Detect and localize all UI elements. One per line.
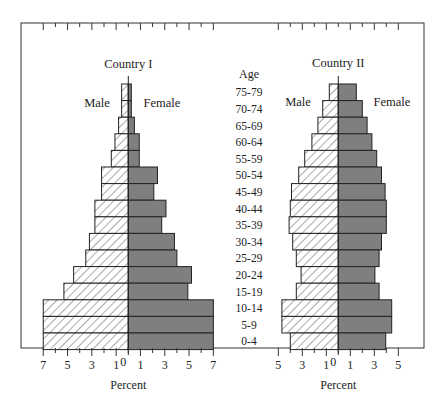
female-bar	[338, 84, 356, 101]
female-bar	[128, 217, 161, 234]
x-tick-label: 3	[89, 358, 95, 372]
female-bar	[338, 300, 391, 317]
male-bar	[305, 150, 339, 167]
male-bar	[318, 117, 338, 134]
age-axis-labels: Age 75-7970-7465-6960-6455-5950-5445-494…	[236, 67, 263, 347]
male-bar	[290, 333, 338, 350]
male-bar	[95, 217, 128, 234]
male-bar	[122, 84, 129, 101]
male-bar	[312, 134, 338, 151]
female-bar	[338, 200, 386, 217]
female-bar	[338, 217, 386, 234]
x-tick-label: 1	[137, 358, 143, 372]
age-group-label: 25-29	[236, 252, 263, 264]
female-bar	[338, 267, 375, 284]
age-group-label: 5-9	[241, 319, 257, 331]
age-group-label: 20-24	[236, 269, 263, 281]
x-tick-label: 1	[347, 358, 353, 372]
female-bar	[128, 300, 213, 317]
female-bar	[338, 150, 376, 167]
x-tick-label: 5	[65, 358, 71, 372]
male-bar	[296, 250, 338, 267]
age-group-label: 65-69	[236, 120, 263, 132]
male-bar	[89, 233, 128, 250]
male-bar	[43, 300, 128, 317]
x-tick-label: 5	[186, 358, 192, 372]
female-bar	[338, 250, 379, 267]
male-bar	[282, 300, 338, 317]
age-group-label: 40-44	[236, 203, 263, 215]
male-bar	[102, 167, 129, 184]
female-bar	[338, 316, 391, 333]
x-tick-label: 7	[40, 358, 46, 372]
female-bar	[338, 134, 372, 151]
male-bar	[292, 184, 339, 201]
female-bar	[128, 283, 188, 300]
female-bar	[338, 333, 385, 350]
male-bar	[64, 283, 128, 300]
female-label: Female	[144, 96, 181, 110]
male-bar	[289, 217, 338, 234]
panel-country-i: Country IMaleFemale753101357Percent	[40, 23, 216, 392]
x-tick-label: 3	[371, 358, 377, 372]
male-bar	[43, 316, 128, 333]
female-bar	[128, 233, 174, 250]
female-bar	[128, 333, 213, 350]
female-bar	[338, 233, 381, 250]
age-group-label: 15-19	[236, 286, 263, 298]
age-group-label: 60-64	[236, 136, 263, 148]
female-bar	[128, 184, 154, 201]
female-bar	[128, 150, 139, 167]
female-bar	[128, 267, 191, 284]
x-tick-label: 7	[210, 358, 216, 372]
male-bar	[43, 333, 128, 350]
male-bar	[102, 184, 129, 201]
female-bar	[338, 283, 379, 300]
female-bar	[128, 316, 213, 333]
female-bar	[128, 117, 134, 134]
age-group-label: 50-54	[236, 169, 263, 181]
age-group-label: 75-79	[236, 86, 263, 98]
x-tick-label: 0	[330, 355, 336, 369]
male-bar	[329, 84, 338, 101]
age-group-label: 70-74	[236, 103, 263, 115]
female-bar	[128, 167, 157, 184]
male-label: Male	[84, 96, 110, 110]
female-label: Female	[374, 95, 411, 109]
male-bar	[323, 101, 339, 118]
age-axis-title: Age	[239, 67, 259, 81]
female-bar	[128, 134, 139, 151]
x-axis-label: Percent	[110, 378, 147, 392]
female-bar	[128, 250, 177, 267]
male-bar	[86, 250, 129, 267]
x-tick-label: 5	[275, 358, 281, 372]
age-group-label: 45-49	[236, 186, 263, 198]
female-bar	[338, 184, 385, 201]
male-bar	[282, 316, 338, 333]
age-group-label: 0-4	[241, 335, 257, 347]
female-bar	[338, 117, 367, 134]
female-bar	[338, 101, 362, 118]
x-tick-label: 1	[323, 358, 329, 372]
male-bar	[293, 233, 339, 250]
male-bar	[115, 134, 128, 151]
male-bar	[301, 267, 338, 284]
population-pyramid-chart: Country IMaleFemale753101357PercentCount…	[0, 0, 441, 403]
male-bar	[296, 283, 338, 300]
panel-title: Country I	[104, 57, 152, 71]
panel-country-ii: Country IIMaleFemale5310135Percent	[275, 23, 411, 392]
age-group-label: 55-59	[236, 153, 263, 165]
x-tick-label: 1	[113, 358, 119, 372]
x-tick-label: 3	[162, 358, 168, 372]
x-tick-label: 3	[299, 358, 305, 372]
male-bar	[111, 150, 128, 167]
age-group-label: 10-14	[236, 302, 263, 314]
female-bar	[338, 167, 381, 184]
female-bar	[128, 200, 166, 217]
male-bar	[119, 117, 129, 134]
male-bar	[299, 167, 339, 184]
age-group-label: 35-39	[236, 219, 263, 231]
age-group-label: 30-34	[236, 236, 263, 248]
male-bar	[122, 101, 129, 118]
chart-canvas: Country IMaleFemale753101357PercentCount…	[0, 0, 441, 403]
